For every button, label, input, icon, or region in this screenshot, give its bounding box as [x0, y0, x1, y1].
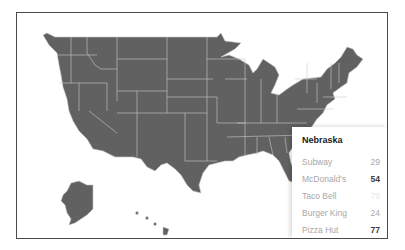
tooltip-title: Nebraska [302, 135, 343, 145]
tooltip-row-mcdonalds: McDonald's 54 [302, 174, 380, 184]
row-label: McDonald's [302, 174, 346, 184]
tooltip-row-taco-bell: Taco Bell 79 [302, 191, 380, 201]
row-value: 29 [371, 157, 380, 167]
row-label: Subway [302, 157, 332, 167]
row-value: 24 [371, 208, 380, 218]
state-tooltip: Nebraska Subway 29 McDonald's 54 Taco Be… [292, 127, 387, 238]
row-value: 54 [371, 174, 380, 184]
row-value: 79 [371, 191, 380, 201]
tooltip-row-burger-king: Burger King 24 [302, 208, 380, 218]
row-label: Pizza Hut [302, 225, 338, 235]
row-label: Taco Bell [302, 191, 337, 201]
map-frame: Nebraska Subway 29 McDonald's 54 Taco Be… [16, 12, 388, 239]
row-label: Burger King [302, 208, 347, 218]
row-value: 77 [371, 225, 380, 235]
tooltip-row-pizza-hut: Pizza Hut 77 [302, 225, 380, 235]
tooltip-row-subway: Subway 29 [302, 157, 380, 167]
